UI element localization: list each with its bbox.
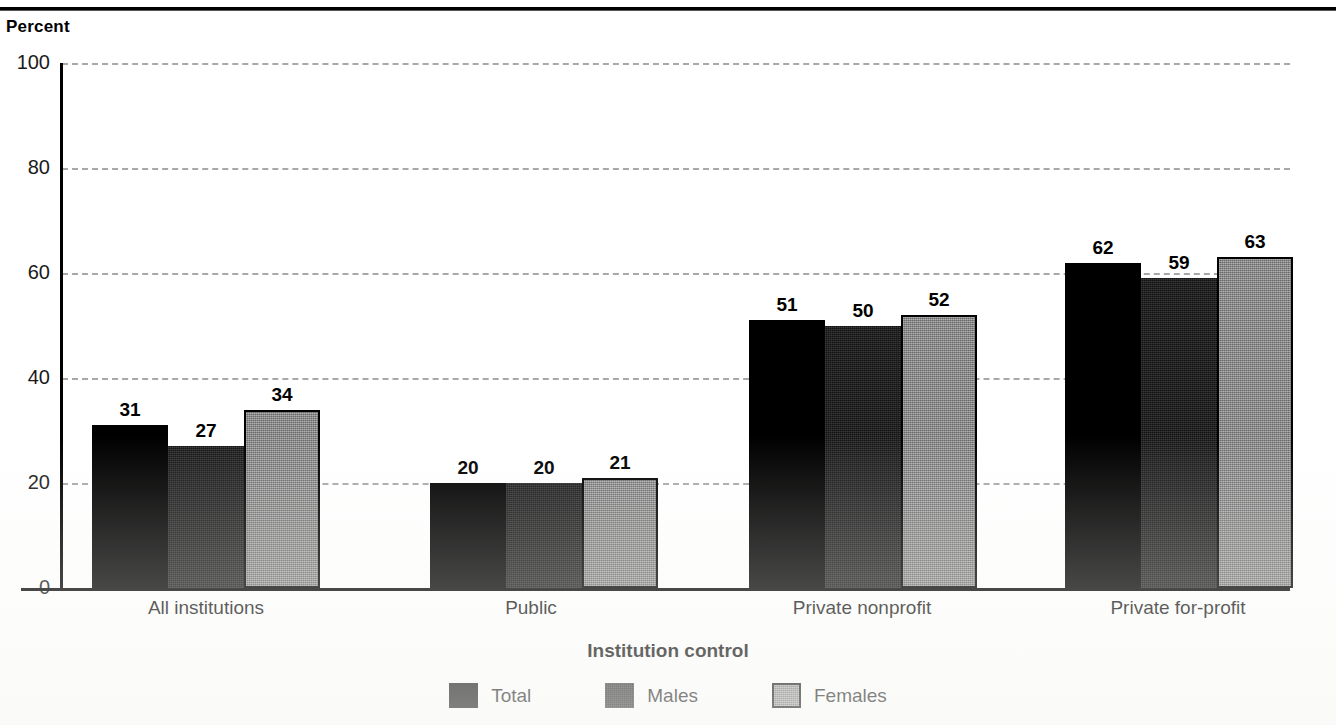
dark-textured-swatch	[605, 683, 634, 708]
y-tick-label: 80	[6, 157, 50, 177]
x-category-label: Private for-profit	[998, 597, 1336, 619]
legend-item-total[interactable]: Total	[449, 683, 531, 708]
bar-value-label: 21	[570, 452, 670, 474]
bar-females-2	[901, 315, 977, 588]
bar-males-1	[506, 483, 582, 588]
x-category-label: Private nonprofit	[682, 597, 1042, 619]
x-category-label: All institutions	[26, 597, 386, 619]
bar-females-3	[1217, 257, 1293, 588]
bar-chart-figure: Percent 020406080100 3127342020215150526…	[0, 0, 1336, 725]
legend-item-females[interactable]: Females	[772, 683, 887, 708]
chart-legend: TotalMalesFemales	[0, 683, 1336, 708]
x-axis-line	[21, 588, 1290, 591]
x-axis-title: Institution control	[0, 640, 1336, 662]
x-category-label: Public	[351, 597, 711, 619]
plot-area: 020406080100 312734202021515052625963 Al…	[0, 0, 1336, 725]
gridline-80	[62, 168, 1290, 170]
bar-females-1	[582, 478, 658, 588]
bar-value-label: 34	[232, 384, 332, 406]
bar-total-2	[749, 320, 825, 588]
legend-label: Males	[647, 685, 698, 707]
bar-total-1	[430, 483, 506, 588]
bar-males-2	[825, 326, 901, 589]
y-tick-label: 20	[6, 472, 50, 492]
bar-total-3	[1065, 263, 1141, 589]
y-tick-label: 40	[6, 367, 50, 387]
legend-item-males[interactable]: Males	[605, 683, 698, 708]
bar-females-0	[244, 410, 320, 589]
bar-value-label: 31	[80, 399, 180, 421]
legend-label: Total	[491, 685, 531, 707]
gray-textured-swatch	[772, 683, 801, 708]
legend-label: Females	[814, 685, 887, 707]
bar-males-3	[1141, 278, 1217, 588]
bar-value-label: 52	[889, 289, 989, 311]
black-swatch	[449, 683, 478, 708]
y-tick-label: 0	[6, 577, 50, 597]
bar-value-label: 63	[1205, 231, 1305, 253]
gridline-100	[62, 63, 1290, 65]
y-tick-label: 100	[6, 52, 50, 72]
y-axis-line	[60, 63, 63, 590]
y-tick-label: 60	[6, 262, 50, 282]
bar-males-0	[168, 446, 244, 588]
bar-value-label: 59	[1129, 252, 1229, 274]
bar-total-0	[92, 425, 168, 588]
bar-value-label: 27	[156, 420, 256, 442]
